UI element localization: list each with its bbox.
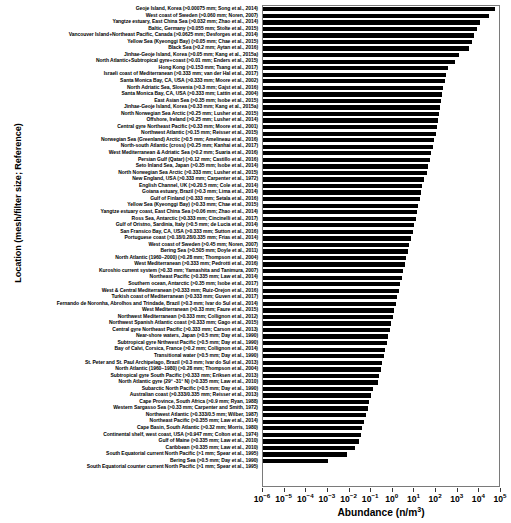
bar xyxy=(263,217,416,221)
bar xyxy=(263,400,369,404)
bar-row xyxy=(263,458,499,465)
bar xyxy=(263,243,409,247)
bar xyxy=(263,7,495,11)
x-axis-label: Abundance (n/m3) xyxy=(262,506,500,518)
bar xyxy=(263,256,406,260)
x-tick-label: 10−2 xyxy=(340,492,357,504)
bar xyxy=(263,40,472,44)
category-label-column: Geoje Island, Korea (>0.00075 mm; Song e… xyxy=(14,5,260,487)
x-tick-mark xyxy=(349,488,350,492)
bar xyxy=(263,112,439,116)
bar xyxy=(263,446,355,450)
bar xyxy=(263,276,402,280)
bar xyxy=(263,53,459,57)
bar xyxy=(263,204,418,208)
bar xyxy=(263,46,469,50)
x-tick-label: 10−5 xyxy=(275,492,292,504)
bar xyxy=(263,177,424,181)
bar xyxy=(263,420,364,424)
bar xyxy=(263,393,371,397)
bar xyxy=(263,367,381,371)
x-tick-label: 100 xyxy=(385,492,398,504)
bar xyxy=(263,439,359,443)
bar xyxy=(263,413,366,417)
bar xyxy=(263,223,414,227)
bar xyxy=(263,262,405,266)
bar xyxy=(263,459,328,463)
bar xyxy=(263,315,393,319)
bar xyxy=(263,105,440,109)
x-tick-label: 10−1 xyxy=(362,492,379,504)
x-tick-label: 10−4 xyxy=(297,492,314,504)
bar xyxy=(263,145,433,149)
bar xyxy=(263,20,480,24)
bar xyxy=(263,197,420,201)
chart-root: Location (mesh/filter size; Reference) G… xyxy=(0,0,511,523)
plot-area xyxy=(262,5,500,487)
x-tick-mark xyxy=(262,488,263,492)
x-tick-mark xyxy=(392,488,393,492)
bar xyxy=(263,138,434,142)
bar xyxy=(263,341,387,345)
x-tick-mark xyxy=(413,488,414,492)
x-tick-mark xyxy=(305,488,306,492)
x-tick-label: 105 xyxy=(493,492,506,504)
bar xyxy=(263,452,347,456)
bar xyxy=(263,118,438,122)
bar xyxy=(263,210,417,214)
x-tick-label: 10−6 xyxy=(254,492,271,504)
bar xyxy=(263,99,441,103)
bar xyxy=(263,374,379,378)
bar xyxy=(263,158,430,162)
bar xyxy=(263,190,421,194)
bar xyxy=(263,171,427,175)
bar xyxy=(263,380,378,384)
x-axis-tick-labels: 10−610−510−410−310−210−11001011021031041… xyxy=(262,492,500,506)
bar xyxy=(263,184,422,188)
bar xyxy=(263,66,448,70)
bar xyxy=(263,289,399,293)
bar xyxy=(263,269,403,273)
x-tick-mark xyxy=(457,488,458,492)
bar xyxy=(263,406,368,410)
x-tick-label: 104 xyxy=(472,492,485,504)
bar xyxy=(263,14,489,18)
bar xyxy=(263,60,455,64)
x-tick-label: 10−3 xyxy=(319,492,336,504)
x-tick-label: 103 xyxy=(450,492,463,504)
bar xyxy=(263,328,390,332)
bar xyxy=(263,132,436,136)
bar xyxy=(263,230,413,234)
bar xyxy=(263,334,388,338)
bar xyxy=(263,321,391,325)
bar xyxy=(263,361,382,365)
x-tick-mark xyxy=(284,488,285,492)
bar xyxy=(263,282,400,286)
bar xyxy=(263,249,408,253)
bar xyxy=(263,27,477,31)
bar xyxy=(263,302,396,306)
x-tick-label: 101 xyxy=(407,492,420,504)
bar xyxy=(263,387,373,391)
bar xyxy=(263,295,397,299)
x-tick-mark xyxy=(435,488,436,492)
bar xyxy=(263,73,446,77)
x-tick-mark xyxy=(500,488,501,492)
bar xyxy=(263,433,361,437)
x-axis-label-text: Abundance (n/m3) xyxy=(337,507,424,518)
bar xyxy=(263,33,474,37)
bar xyxy=(263,151,431,155)
bar xyxy=(263,92,442,96)
bar xyxy=(263,348,385,352)
bar xyxy=(263,308,394,312)
bar xyxy=(263,426,362,430)
bar xyxy=(263,164,428,168)
bar xyxy=(263,86,443,90)
x-tick-label: 102 xyxy=(429,492,442,504)
bar xyxy=(263,79,445,83)
x-tick-mark xyxy=(370,488,371,492)
category-label: South Equatorial counter current North P… xyxy=(14,463,260,470)
bar xyxy=(263,236,411,240)
x-tick-mark xyxy=(327,488,328,492)
bar xyxy=(263,125,437,129)
